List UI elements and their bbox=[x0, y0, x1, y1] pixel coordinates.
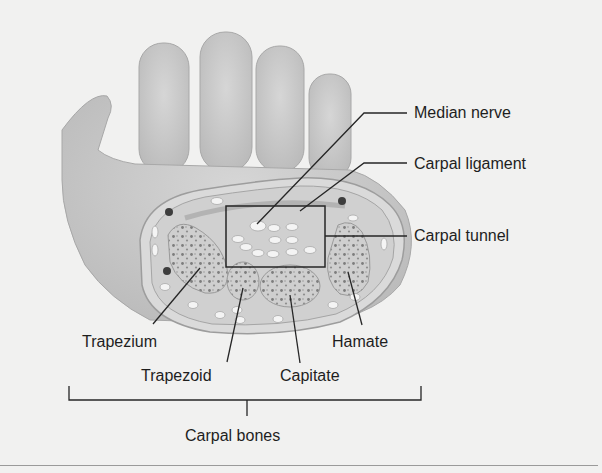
bottom-divider bbox=[0, 465, 598, 466]
finger-middle bbox=[200, 32, 252, 172]
carpal-bones-bracket bbox=[69, 386, 421, 400]
finger-little bbox=[309, 74, 351, 178]
vessel bbox=[338, 197, 346, 205]
vessel bbox=[163, 267, 171, 275]
finger-ring bbox=[256, 46, 304, 172]
finger-index bbox=[139, 43, 189, 173]
label-trapezoid: Trapezoid bbox=[141, 368, 212, 384]
vessel bbox=[165, 208, 173, 216]
label-carpal-bones: Carpal bones bbox=[185, 428, 280, 444]
label-hamate: Hamate bbox=[332, 334, 388, 350]
carpal-tunnel-illustration bbox=[0, 0, 602, 473]
label-median-nerve: Median nerve bbox=[414, 105, 511, 121]
label-trapezium: Trapezium bbox=[82, 334, 157, 350]
label-carpal-ligament: Carpal ligament bbox=[414, 156, 526, 172]
bone-capitate bbox=[260, 265, 320, 307]
label-carpal-tunnel: Carpal tunnel bbox=[414, 228, 509, 244]
label-capitate: Capitate bbox=[280, 368, 340, 384]
